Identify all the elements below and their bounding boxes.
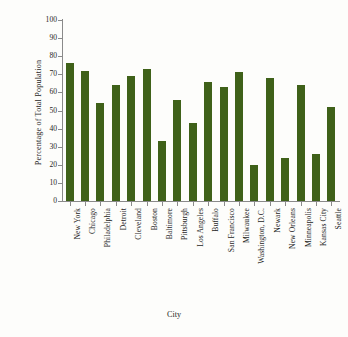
x-axis-tick bbox=[224, 202, 225, 206]
x-axis-tick-label: Milwaukee bbox=[242, 208, 251, 243]
y-axis-tick bbox=[58, 92, 63, 93]
bar bbox=[266, 78, 274, 201]
bar-chart: Percentage of Total Population 100908070… bbox=[0, 0, 348, 337]
x-axis-tick bbox=[239, 202, 240, 206]
x-axis-tick bbox=[70, 202, 71, 206]
x-axis-tick-label: New York bbox=[73, 208, 82, 240]
y-axis-tick-label: 30 bbox=[49, 143, 57, 151]
x-axis-tick bbox=[270, 202, 271, 206]
x-axis-tick bbox=[85, 202, 86, 206]
x-axis-tick-label: Newark bbox=[273, 208, 282, 233]
bar bbox=[250, 165, 258, 201]
x-axis-tick-label: Detroit bbox=[119, 208, 128, 230]
y-axis-tick-label: 60 bbox=[49, 88, 57, 96]
x-axis-tick bbox=[193, 202, 194, 206]
x-axis-tick bbox=[208, 202, 209, 206]
x-axis-tick-label: Chicago bbox=[88, 208, 97, 234]
bar bbox=[173, 100, 181, 201]
bar bbox=[297, 85, 305, 201]
bar bbox=[66, 63, 74, 201]
y-axis-tick-label: 20 bbox=[49, 161, 57, 169]
bar bbox=[281, 158, 289, 201]
y-axis-tick-label: 70 bbox=[49, 70, 57, 78]
x-axis-tick-label: Seattle bbox=[334, 208, 343, 229]
bar bbox=[127, 76, 135, 201]
y-axis-tick bbox=[58, 165, 63, 166]
y-axis-tick-label: 10 bbox=[49, 179, 57, 187]
x-axis-tick bbox=[331, 202, 332, 206]
y-axis-tick bbox=[58, 20, 63, 21]
x-axis-tick bbox=[147, 202, 148, 206]
y-axis-tick bbox=[58, 111, 63, 112]
bar bbox=[158, 141, 166, 201]
x-axis-tick-label: New Orleans bbox=[288, 208, 297, 249]
x-axis-tick-label: Baltimore bbox=[165, 208, 174, 239]
y-axis-tick-label: 40 bbox=[49, 125, 57, 133]
bar bbox=[235, 72, 243, 201]
x-axis-tick bbox=[254, 202, 255, 206]
x-axis-tick bbox=[162, 202, 163, 206]
x-axis-tick-label: Boston bbox=[150, 208, 159, 230]
x-axis-tick-label: San Francisco bbox=[227, 208, 236, 252]
x-axis-tick bbox=[100, 202, 101, 206]
bar bbox=[189, 123, 197, 201]
y-axis-title: Percentage of Total Population bbox=[34, 13, 43, 213]
y-axis-tick bbox=[58, 74, 63, 75]
x-axis-tick bbox=[131, 202, 132, 206]
x-axis-tick bbox=[116, 202, 117, 206]
bar bbox=[312, 154, 320, 201]
x-axis-line bbox=[62, 201, 340, 202]
x-axis-tick-label: Buffalo bbox=[211, 208, 220, 232]
y-axis-tick-label: 50 bbox=[49, 107, 57, 115]
bar bbox=[327, 107, 335, 201]
y-axis-tick bbox=[58, 129, 63, 130]
x-axis-tick-label: Kansas City bbox=[319, 208, 328, 246]
x-axis-tick-label: Cleveland bbox=[134, 208, 143, 240]
bar bbox=[96, 103, 104, 201]
x-axis-title: City bbox=[0, 310, 348, 319]
x-axis-tick-label: Minneapolis bbox=[304, 208, 313, 247]
y-axis-tick-label: 90 bbox=[49, 34, 57, 42]
y-axis-tick-label: 0 bbox=[53, 197, 57, 205]
bar bbox=[220, 87, 228, 201]
y-axis-tick-label: 100 bbox=[46, 16, 57, 24]
y-axis-tick bbox=[58, 147, 63, 148]
y-axis-tick bbox=[58, 56, 63, 57]
x-axis-tick bbox=[285, 202, 286, 206]
y-axis-tick bbox=[58, 201, 63, 202]
x-axis-tick bbox=[177, 202, 178, 206]
y-axis-tick-label: 80 bbox=[49, 52, 57, 60]
y-axis-tick bbox=[58, 183, 63, 184]
bar bbox=[112, 85, 120, 201]
y-axis-tick bbox=[58, 38, 63, 39]
bar bbox=[204, 82, 212, 201]
x-axis-tick-label: Philadelphia bbox=[103, 208, 112, 247]
x-axis-tick-label: Washington, D.C. bbox=[257, 208, 266, 264]
bar bbox=[81, 71, 89, 201]
x-axis-tick-label: Pittsburgh bbox=[180, 208, 189, 240]
x-axis-tick bbox=[301, 202, 302, 206]
x-axis-tick-label: Los Angeles bbox=[196, 208, 205, 247]
x-axis-tick bbox=[316, 202, 317, 206]
bar bbox=[143, 69, 151, 201]
